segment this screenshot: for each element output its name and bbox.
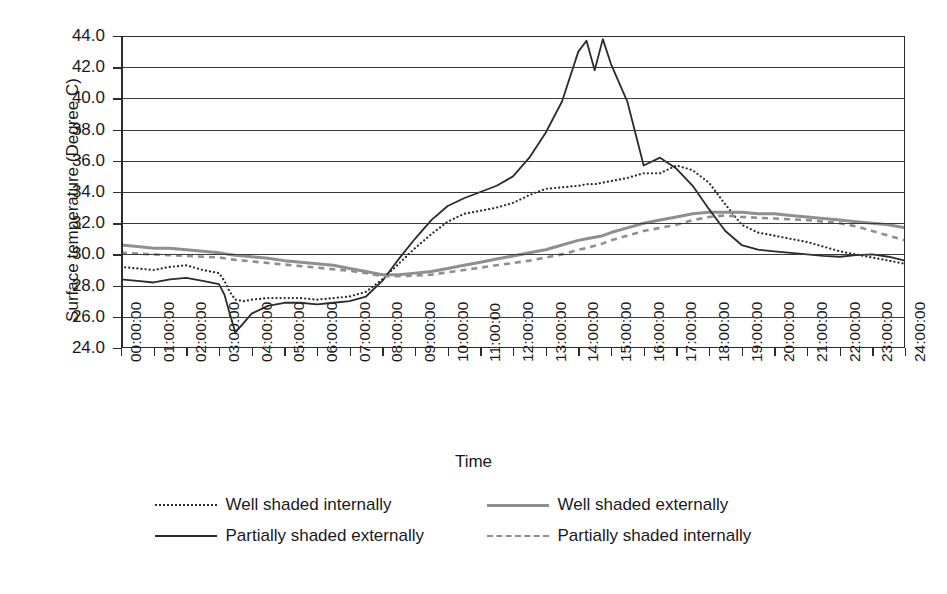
gridline [121, 161, 905, 162]
legend-item-partially-shaded-externally: Partially shaded externally [155, 526, 461, 546]
x-axis-tick-label: 24:00:00 [911, 302, 929, 362]
y-axis-tick-mark [113, 192, 121, 193]
y-axis-tick-mark [113, 67, 121, 68]
y-axis-tick-label: 36.0 [43, 152, 105, 169]
y-axis-tick-mark [113, 98, 121, 99]
x-axis-tick-mark [186, 348, 187, 356]
y-axis-tick-mark [113, 286, 121, 287]
y-axis-tick-label: 34.0 [43, 183, 105, 200]
legend-key-dotted-dark-icon [155, 498, 217, 512]
gridline [121, 130, 905, 131]
gridline [121, 67, 905, 68]
y-axis-tick-mark [113, 36, 121, 37]
chart-legend: Well shaded internally Well shaded exter… [0, 495, 947, 557]
legend-key-solid-dark-icon [155, 529, 217, 543]
y-axis-tick-label: 26.0 [43, 308, 105, 325]
legend-label: Partially shaded internally [558, 526, 752, 546]
series-line-partially-shaded-internally [121, 215, 905, 276]
legend-label: Well shaded internally [226, 495, 392, 515]
y-axis-tick-mark [113, 254, 121, 255]
y-axis-tick-label: 38.0 [43, 121, 105, 138]
axis-line-top [121, 36, 905, 37]
x-axis-tick-mark [252, 348, 253, 356]
gridline [121, 98, 905, 99]
y-axis-tick-mark [113, 161, 121, 162]
axis-line-bottom [121, 347, 905, 348]
series-line-well-shaded-externally [121, 212, 905, 274]
x-axis-tick-mark [872, 348, 873, 356]
x-axis-tick-mark [546, 348, 547, 356]
plot-area [121, 36, 905, 348]
axis-line-left [121, 36, 123, 348]
gridline [121, 223, 905, 224]
x-axis-tick-mark [382, 348, 383, 356]
x-axis-tick-mark [709, 348, 710, 356]
x-axis-tick-mark [415, 348, 416, 356]
y-axis-tick-label: 40.0 [43, 89, 105, 106]
series-line-well-shaded-internally [121, 165, 905, 301]
x-axis-tick-mark [676, 348, 677, 356]
y-axis-tick-label: 42.0 [43, 58, 105, 75]
gridline [121, 192, 905, 193]
legend-item-partially-shaded-internally: Partially shaded internally [487, 526, 793, 546]
x-axis-tick-mark [611, 348, 612, 356]
x-axis-tick-mark [480, 348, 481, 356]
x-axis-tick-mark [284, 348, 285, 356]
legend-key-solid-gray-icon [487, 498, 549, 512]
x-axis-tick-mark [840, 348, 841, 356]
x-axis-tick-mark [448, 348, 449, 356]
legend-item-well-shaded-internally: Well shaded internally [155, 495, 461, 515]
legend-label: Partially shaded externally [226, 526, 424, 546]
x-axis-tick-mark [219, 348, 220, 356]
y-axis-tick-mark [113, 317, 121, 318]
gridline [121, 317, 905, 318]
x-axis-tick-mark [513, 348, 514, 356]
x-axis-title: Time [0, 452, 947, 472]
y-axis-tick-label: 44.0 [43, 27, 105, 44]
x-axis-tick-mark [742, 348, 743, 356]
gridline [121, 254, 905, 255]
y-axis-tick-label: 32.0 [43, 214, 105, 231]
x-axis-tick-mark [774, 348, 775, 356]
x-axis-tick-mark [807, 348, 808, 356]
axis-line-right [904, 36, 906, 348]
x-axis-tick-mark [350, 348, 351, 356]
legend-key-dashed-gray-icon [487, 529, 549, 543]
y-axis-tick-label: 28.0 [43, 277, 105, 294]
x-axis-tick-mark [317, 348, 318, 356]
legend-item-well-shaded-externally: Well shaded externally [487, 495, 793, 515]
y-axis-tick-mark [113, 130, 121, 131]
y-axis-tick-mark [113, 348, 121, 349]
x-axis-tick-mark [578, 348, 579, 356]
gridline [121, 286, 905, 287]
y-axis-tick-label: 24.0 [43, 339, 105, 356]
legend-label: Well shaded externally [558, 495, 729, 515]
x-axis-tick-mark [905, 348, 906, 356]
y-axis-tick-mark [113, 223, 121, 224]
series-line-partially-shaded-externally [121, 39, 905, 332]
y-axis-tick-label: 30.0 [43, 245, 105, 262]
x-axis-tick-mark [154, 348, 155, 356]
x-axis-tick-mark [121, 348, 122, 356]
x-axis-tick-mark [644, 348, 645, 356]
chart-figure: Surface temperature (Degree C) 44.042.04… [0, 0, 947, 594]
